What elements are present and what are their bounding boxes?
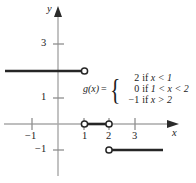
y-tick-label-1: 1 bbox=[41, 92, 46, 103]
case-condition: if x > 2 bbox=[142, 94, 172, 105]
formula-function-name: g(x) bbox=[83, 83, 100, 94]
case-value: 0 bbox=[122, 83, 142, 94]
case-value: 2 bbox=[122, 72, 142, 83]
y-axis-arrowhead bbox=[54, 6, 62, 17]
x-tick-label-2: 2 bbox=[106, 131, 111, 142]
formula-brace: { bbox=[110, 77, 120, 100]
y-axis-label: y bbox=[47, 4, 52, 15]
case-if-word: if bbox=[142, 94, 148, 105]
x-axis-label: x bbox=[172, 128, 177, 139]
open-point-2-0 bbox=[106, 121, 112, 127]
y-tick-label-3: 3 bbox=[41, 38, 46, 49]
piecewise-formula: g(x) = { 2 if x < 1 0 if 1 < x < 2 −1 if… bbox=[83, 72, 189, 105]
formula-case-row: 2 if x < 1 bbox=[122, 72, 189, 83]
formula-case-row: 0 if 1 < x < 2 bbox=[122, 83, 189, 94]
open-point-1-0 bbox=[81, 121, 87, 127]
y-tick-label-neg1: −1 bbox=[35, 144, 46, 155]
case-condition-expr: x < 1 bbox=[151, 72, 172, 83]
formula-equals: = bbox=[100, 83, 109, 94]
case-if-word: if bbox=[142, 72, 148, 83]
case-condition-expr: x > 2 bbox=[151, 94, 172, 105]
case-condition: if 1 < x < 2 bbox=[142, 83, 189, 94]
formula-cases: 2 if x < 1 0 if 1 < x < 2 −1 if x > 2 bbox=[122, 72, 189, 105]
open-point-2-neg1 bbox=[106, 147, 112, 153]
case-if-word: if bbox=[142, 83, 148, 94]
x-tick-label-neg1: −1 bbox=[25, 131, 36, 142]
case-condition: if x < 1 bbox=[142, 72, 172, 83]
x-tick-label-3: 3 bbox=[132, 131, 137, 142]
case-condition-expr: 1 < x < 2 bbox=[151, 83, 189, 94]
case-value: −1 bbox=[122, 94, 142, 105]
formula-case-row: −1 if x > 2 bbox=[122, 94, 189, 105]
x-tick-label-1: 1 bbox=[82, 131, 87, 142]
piecewise-function-figure: y x 3 1 −1 −1 1 2 3 g(x) = { 2 if x < 1 … bbox=[0, 0, 196, 183]
